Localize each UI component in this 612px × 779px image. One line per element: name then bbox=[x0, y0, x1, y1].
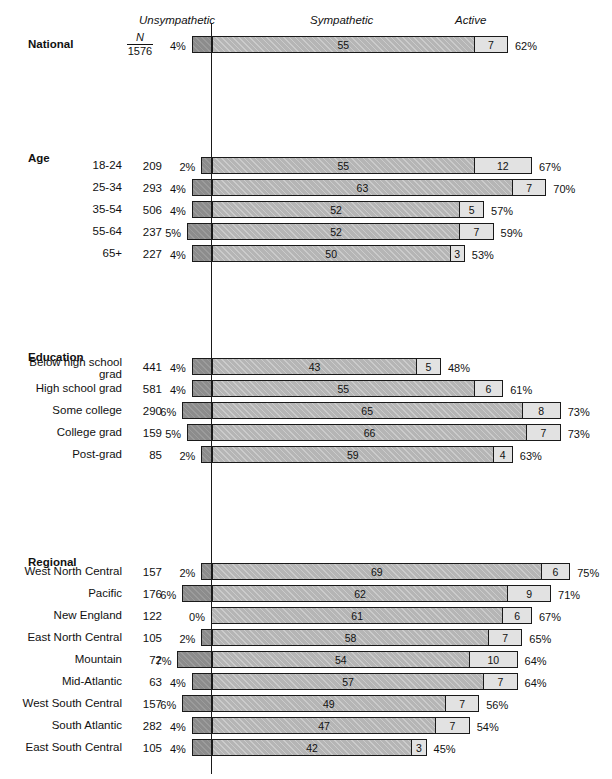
segment-active: 7 bbox=[512, 180, 545, 195]
segment-unsympathetic bbox=[183, 403, 212, 418]
total-percent-label: 53% bbox=[472, 249, 494, 261]
segment-sympathetic: 69 bbox=[212, 564, 541, 579]
segment-sympathetic: 43 bbox=[212, 359, 416, 374]
stacked-bar: 616 bbox=[211, 607, 532, 624]
stacked-bar: 5512 bbox=[201, 157, 532, 174]
segment-unsympathetic bbox=[188, 425, 212, 440]
segment-unsympathetic bbox=[193, 246, 212, 261]
row-label: 35-54 bbox=[0, 204, 122, 216]
stacked-bar: 637 bbox=[192, 179, 546, 196]
chart-row: New England1220%61667% bbox=[0, 607, 612, 629]
segment-sympathetic: 59 bbox=[212, 447, 493, 462]
sympathetic-value: 42 bbox=[306, 742, 318, 754]
active-value: 7 bbox=[459, 698, 465, 710]
chart-row: Below high school grad4414%43548% bbox=[0, 358, 612, 380]
segment-active: 7 bbox=[474, 37, 507, 52]
segment-sympathetic: 50 bbox=[212, 246, 450, 261]
unsympathetic-percent-label: 5% bbox=[131, 428, 181, 440]
unsympathetic-percent-label: 4% bbox=[136, 205, 186, 217]
sympathetic-value: 50 bbox=[325, 248, 337, 260]
stacked-bar: 587 bbox=[201, 629, 522, 646]
active-value: 12 bbox=[497, 160, 509, 172]
stacked-bar: 667 bbox=[187, 424, 561, 441]
sympathetic-value: 62 bbox=[354, 588, 366, 600]
header-unsympathetic: Unsympathetic bbox=[139, 14, 215, 26]
unsympathetic-percent-label: 2% bbox=[145, 633, 195, 645]
active-value: 6 bbox=[553, 566, 559, 578]
segment-sympathetic: 52 bbox=[212, 224, 459, 239]
total-percent-label: 71% bbox=[558, 589, 580, 601]
segment-active: 7 bbox=[488, 630, 521, 645]
segment-sympathetic: 57 bbox=[212, 674, 483, 689]
segment-active: 5 bbox=[416, 359, 440, 374]
stacked-bar: 435 bbox=[192, 358, 441, 375]
sympathetic-value: 52 bbox=[330, 204, 342, 216]
segment-sympathetic: 63 bbox=[212, 180, 512, 195]
active-value: 7 bbox=[474, 226, 480, 238]
segment-active: 9 bbox=[507, 586, 550, 601]
chart-row: Mountain727%541064% bbox=[0, 651, 612, 673]
total-percent-label: 73% bbox=[568, 428, 590, 440]
row-label: 25-34 bbox=[0, 182, 122, 194]
column-headers: Unsympathetic Sympathetic Active bbox=[0, 14, 612, 30]
chart-row: Mid-Atlantic634%57764% bbox=[0, 673, 612, 695]
segment-unsympathetic bbox=[193, 740, 212, 755]
unsympathetic-percent-label: 4% bbox=[136, 721, 186, 733]
segment-active: 8 bbox=[522, 403, 560, 418]
active-value: 7 bbox=[541, 427, 547, 439]
sympathetic-value: 47 bbox=[318, 720, 330, 732]
row-label: Post-grad bbox=[0, 449, 122, 461]
segment-unsympathetic bbox=[193, 674, 212, 689]
segment-active: 12 bbox=[474, 158, 531, 173]
chart-row: 55-642375%52759% bbox=[0, 223, 612, 245]
total-percent-label: 45% bbox=[434, 743, 456, 755]
segment-active: 6 bbox=[474, 381, 503, 396]
sympathetic-value: 65 bbox=[361, 405, 373, 417]
chart-row: 35-545064%52557% bbox=[0, 201, 612, 223]
total-percent-label: 48% bbox=[448, 362, 470, 374]
segment-sympathetic: 55 bbox=[212, 37, 474, 52]
segment-unsympathetic bbox=[193, 180, 212, 195]
stacked-bar: 5410 bbox=[177, 651, 517, 668]
segment-sympathetic: 47 bbox=[212, 718, 436, 733]
chart-row: South Atlantic2824%47754% bbox=[0, 717, 612, 739]
total-percent-label: 64% bbox=[525, 677, 547, 689]
sympathetic-value: 69 bbox=[371, 566, 383, 578]
header-active: Active bbox=[455, 14, 486, 26]
chart-row: Post-grad852%59463% bbox=[0, 446, 612, 468]
unsympathetic-percent-label: 4% bbox=[136, 40, 186, 52]
chart-row: 18-242092%551267% bbox=[0, 157, 612, 179]
segment-unsympathetic bbox=[183, 696, 212, 711]
chart-row: East South Central1054%42345% bbox=[0, 739, 612, 761]
segment-active: 7 bbox=[483, 674, 516, 689]
sympathetic-value: 55 bbox=[337, 39, 349, 51]
stacked-bar: 658 bbox=[182, 402, 560, 419]
segment-unsympathetic bbox=[183, 586, 212, 601]
stacked-bar: 557 bbox=[192, 36, 508, 53]
diverging-bar-chart: Unsympathetic Sympathetic Active Nationa… bbox=[0, 0, 612, 779]
unsympathetic-percent-label: 6% bbox=[126, 406, 176, 418]
sympathetic-value: 49 bbox=[323, 698, 335, 710]
segment-sympathetic: 42 bbox=[212, 740, 411, 755]
unsympathetic-percent-label: 6% bbox=[126, 589, 176, 601]
total-percent-label: 67% bbox=[539, 161, 561, 173]
sympathetic-value: 61 bbox=[351, 610, 363, 622]
sympathetic-value: 66 bbox=[364, 427, 376, 439]
segment-active: 6 bbox=[502, 608, 531, 623]
row-label: Mountain bbox=[0, 654, 122, 666]
active-value: 4 bbox=[500, 449, 506, 461]
row-label: Mid-Atlantic bbox=[0, 676, 122, 688]
segment-active: 3 bbox=[450, 246, 464, 261]
active-value: 3 bbox=[416, 742, 422, 754]
active-value: 9 bbox=[526, 588, 532, 600]
segment-active: 3 bbox=[411, 740, 425, 755]
segment-unsympathetic bbox=[188, 224, 212, 239]
sympathetic-value: 52 bbox=[330, 226, 342, 238]
chart-row: 65+2274%50353% bbox=[0, 245, 612, 267]
active-value: 8 bbox=[538, 405, 544, 417]
segment-active: 7 bbox=[526, 425, 559, 440]
segment-sympathetic: 52 bbox=[212, 202, 459, 217]
active-value: 3 bbox=[454, 248, 460, 260]
active-value: 6 bbox=[514, 610, 520, 622]
unsympathetic-percent-label: 5% bbox=[131, 227, 181, 239]
